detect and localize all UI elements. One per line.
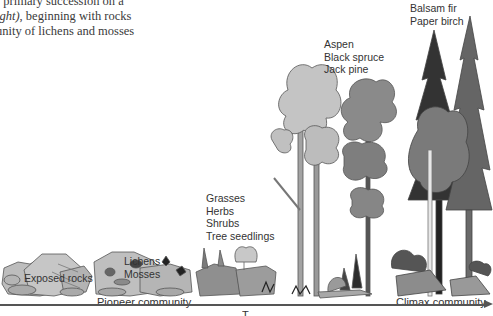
time-axis-line bbox=[0, 304, 487, 306]
stage-line: Mosses bbox=[124, 268, 160, 281]
stage-line: Shrubs bbox=[206, 217, 274, 230]
pioneer-community-label: Pioneer community bbox=[97, 296, 191, 309]
succession-illustration bbox=[0, 0, 493, 316]
stage-line: Aspen bbox=[324, 38, 384, 51]
stage-line: Paper birch bbox=[410, 15, 464, 28]
arrow-head-icon bbox=[484, 300, 493, 308]
stage-label-aspen: Aspen Black spruce Jack pine bbox=[324, 38, 384, 76]
stage-label-lichens-mosses: Lichens Mosses bbox=[124, 255, 160, 280]
stage-line: Grasses bbox=[206, 192, 274, 205]
stage-label-grasses: Grasses Herbs Shrubs Tree seedlings bbox=[206, 192, 274, 242]
climax-community-label: Climax community bbox=[396, 296, 486, 309]
aspen-spruce-pine-illustration bbox=[271, 65, 396, 298]
stage-line: Exposed rocks bbox=[24, 272, 93, 285]
balsam-birch-illustration bbox=[391, 16, 492, 296]
time-axis-label: T bbox=[242, 310, 249, 316]
stage-label-balsam: Balsam fir Paper birch bbox=[410, 2, 464, 27]
stage-line: Black spruce bbox=[324, 51, 384, 64]
stage-line: Lichens bbox=[124, 255, 160, 268]
stage-label-exposed-rocks: Exposed rocks bbox=[24, 272, 93, 285]
grasses-shrubs-illustration bbox=[196, 247, 276, 296]
stage-line: Jack pine bbox=[324, 63, 384, 76]
stage-line: Tree seedlings bbox=[206, 230, 274, 243]
stage-line: Balsam fir bbox=[410, 2, 464, 15]
stage-line: Herbs bbox=[206, 205, 274, 218]
